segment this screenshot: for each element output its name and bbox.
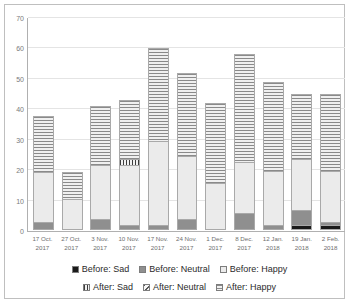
bar-segment-before-neutral[interactable] [149,226,168,229]
bar-segment-before-happy[interactable] [63,200,82,229]
bar-segment-before-happy[interactable] [91,166,110,220]
bar-segment-before-neutral[interactable] [292,211,311,226]
bar-segment-before-neutral[interactable] [178,220,197,229]
plot-area: 010203040506070 [27,18,345,232]
stacked-bar[interactable] [177,73,198,230]
x-axis-tick-line: 2018 [291,243,312,252]
x-axis-tick-label: 27 Oct.2017 [61,234,82,256]
y-axis-tick-label: 50 [16,75,24,82]
x-axis-tick-line: 2017 [234,243,255,252]
x-axis-tick-line: 2017 [61,243,82,252]
bar-segment-after-happy[interactable] [34,117,53,172]
x-axis-tick-line: 10 Nov. [118,234,139,243]
bar-segment-before-happy[interactable] [206,184,225,229]
bar-segment-after-happy[interactable] [149,49,168,142]
bar-segment-before-happy[interactable] [149,142,168,226]
bar-segment-after-happy[interactable] [235,55,254,163]
bar-segment-before-sad[interactable] [292,226,311,229]
bar-segment-before-happy[interactable] [178,157,197,220]
bar-segment-after-happy[interactable] [91,107,110,167]
bar-segment-before-happy[interactable] [235,163,254,214]
x-axis-tick-label: 19 Jan.2018 [291,234,312,256]
bar-segment-after-happy[interactable] [206,104,225,184]
x-axis-tick-label: 17 Nov.2017 [147,234,168,256]
y-axis-tick-label: 30 [16,136,24,143]
stacked-bar[interactable] [205,103,226,230]
bar-slot [148,18,169,230]
legend-swatch-after-neutral-icon [143,284,150,291]
stacked-bar[interactable] [320,94,341,230]
legend-item[interactable]: After: Sad [83,282,133,292]
bar-segment-before-happy[interactable] [34,173,53,224]
bar-segment-before-sad[interactable] [321,226,340,229]
legend-swatch-after-happy-icon [216,284,223,291]
bar-segment-before-neutral[interactable] [235,214,254,229]
bar-segment-before-happy[interactable] [264,172,283,226]
bar-slot [90,18,111,230]
stacked-bar[interactable] [148,48,169,230]
x-axis-tick-line: 24 Nov. [176,234,197,243]
bar-segment-before-happy[interactable] [292,160,311,211]
x-axis-tick-line: 2017 [176,243,197,252]
x-axis-tick-line: 8 Dec. [234,234,255,243]
legend-swatch-before-happy-icon [220,266,227,273]
x-axis-tick-line: 2017 [205,243,226,252]
legend-swatch-before-neutral-icon [139,266,146,273]
x-axis-tick-label: 3 Nov.2017 [90,234,111,256]
stacked-bar[interactable] [234,54,255,230]
y-axis-tick-label: 60 [16,45,24,52]
x-axis-tick-line: 2 Feb. [320,234,341,243]
y-axis-tick-label: 70 [16,15,24,22]
legend-item[interactable]: After: Happy [216,282,276,292]
legend-label: Before: Happy [230,264,288,274]
legend-item[interactable]: Before: Happy [220,264,288,274]
bar-segment-before-happy[interactable] [321,172,340,223]
x-axis-tick-label: 10 Nov.2017 [118,234,139,256]
stacked-bar[interactable] [291,94,312,230]
legend-item[interactable]: Before: Sad [72,264,130,274]
legend-label: Before: Sad [82,264,130,274]
stacked-bar[interactable] [119,100,140,230]
stacked-bar[interactable] [263,82,284,230]
stacked-bar[interactable] [33,116,54,230]
x-axis-tick-line: 2017 [90,243,111,252]
stacked-bar[interactable] [62,172,83,230]
bar-segment-after-happy[interactable] [178,74,197,158]
y-axis-tick-label: 10 [16,197,24,204]
x-axis-tick-label: 17 Oct.2017 [32,234,53,256]
legend-swatch-before-sad-icon [72,266,79,273]
bar-segment-after-happy[interactable] [264,83,283,173]
bar-slot [33,18,54,230]
legend-label: After: Neutral [153,282,206,292]
bar-segment-before-neutral[interactable] [91,220,110,229]
bar-segment-before-neutral[interactable] [34,223,53,229]
x-axis-tick-line: 2018 [262,243,283,252]
bar-slot [320,18,341,230]
legend-label: After: Sad [93,282,133,292]
x-axis-tick-line: 1 Dec. [205,234,226,243]
chart-legend: Before: SadBefore: NeutralBefore: Happy … [9,260,349,300]
legend-row-before: Before: SadBefore: NeutralBefore: Happy [9,260,349,278]
x-axis-tick-line: 2017 [32,243,53,252]
legend-label: After: Happy [226,282,276,292]
x-axis-tick-label: 24 Nov.2017 [176,234,197,256]
x-axis-tick-line: 2017 [118,243,139,252]
bar-segment-after-happy[interactable] [63,173,82,199]
bar-slot [263,18,284,230]
bar-segment-before-neutral[interactable] [120,226,139,229]
bar-segment-after-happy[interactable] [321,95,340,173]
legend-item[interactable]: After: Neutral [143,282,206,292]
stacked-bar[interactable] [90,106,111,230]
x-axis-tick-line: 19 Jan. [291,234,312,243]
y-axis-tick-label: 40 [16,106,24,113]
legend-item[interactable]: Before: Neutral [139,264,210,274]
bar-segment-after-happy[interactable] [292,95,311,161]
x-axis-tick-label: 8 Dec.2017 [234,234,255,256]
x-axis-tick-label: 1 Dec.2017 [205,234,226,256]
chart-frame: 010203040506070 17 Oct.201727 Oct.20173 … [4,4,345,299]
legend-label: Before: Neutral [149,264,210,274]
bar-segment-before-neutral[interactable] [264,226,283,229]
bar-segment-after-happy[interactable] [120,101,139,161]
bar-segment-before-happy[interactable] [120,166,139,226]
bar-slot [62,18,83,230]
